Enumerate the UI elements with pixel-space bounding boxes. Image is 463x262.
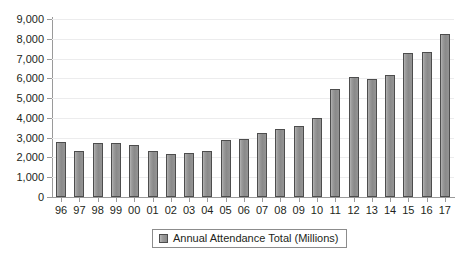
x-axis-tick xyxy=(445,198,446,202)
bar xyxy=(239,139,249,197)
bar xyxy=(422,52,432,197)
bar xyxy=(56,142,66,197)
bar xyxy=(257,133,267,197)
bar xyxy=(111,143,121,197)
x-axis-tick xyxy=(372,198,373,202)
x-axis-tick xyxy=(390,198,391,202)
bar xyxy=(312,118,322,197)
bar xyxy=(166,154,176,198)
y-axis-tick-label: 0 xyxy=(38,192,44,203)
plot-area xyxy=(52,19,454,197)
x-axis-tick xyxy=(427,198,428,202)
x-axis-tick xyxy=(116,198,117,202)
x-axis-tick xyxy=(299,198,300,202)
x-axis-tick xyxy=(262,198,263,202)
bar xyxy=(148,151,158,197)
x-axis-tick xyxy=(244,198,245,202)
bar-chart: 01,0002,0003,0004,0005,0006,0007,0008,00… xyxy=(0,0,463,262)
legend: Annual Attendance Total (Millions) xyxy=(152,229,347,248)
y-axis-tick-label: 6,000 xyxy=(16,73,44,84)
bar xyxy=(74,151,84,197)
x-axis-tick xyxy=(171,198,172,202)
x-axis-tick xyxy=(189,198,190,202)
bar xyxy=(93,143,103,197)
legend-label: Annual Attendance Total (Millions) xyxy=(173,233,339,244)
x-axis-tick xyxy=(134,198,135,202)
bar xyxy=(367,79,377,197)
x-axis-tick xyxy=(98,198,99,202)
bar xyxy=(129,145,139,197)
bar xyxy=(221,140,231,197)
y-axis-tick xyxy=(47,197,52,198)
y-axis-tick-label: 9,000 xyxy=(16,14,44,25)
y-axis-tick-label: 8,000 xyxy=(16,34,44,45)
bar xyxy=(294,126,304,197)
y-axis-tick-label: 1,000 xyxy=(16,172,44,183)
bar xyxy=(403,53,413,197)
bar xyxy=(385,75,395,197)
x-axis-tick xyxy=(280,198,281,202)
y-axis-tick-label: 2,000 xyxy=(16,152,44,163)
x-axis-tick xyxy=(335,198,336,202)
x-axis-tick xyxy=(317,198,318,202)
y-axis-tick-label: 5,000 xyxy=(16,93,44,104)
legend-swatch-icon xyxy=(159,234,168,243)
x-axis-tick xyxy=(79,198,80,202)
x-axis-tick xyxy=(153,198,154,202)
bar xyxy=(330,89,340,197)
y-axis-tick-label: 4,000 xyxy=(16,113,44,124)
x-axis-line xyxy=(52,197,455,198)
x-axis-tick xyxy=(354,198,355,202)
x-axis-tick-label: 17 xyxy=(433,205,457,216)
y-axis-tick-label: 3,000 xyxy=(16,133,44,144)
x-axis-tick xyxy=(226,198,227,202)
bar xyxy=(184,153,194,197)
bar xyxy=(349,77,359,197)
bar xyxy=(275,129,285,197)
bar xyxy=(440,34,450,197)
x-axis-tick xyxy=(61,198,62,202)
x-axis-tick xyxy=(207,198,208,202)
x-axis-tick xyxy=(408,198,409,202)
y-axis-tick-label: 7,000 xyxy=(16,54,44,65)
bar xyxy=(202,151,212,197)
